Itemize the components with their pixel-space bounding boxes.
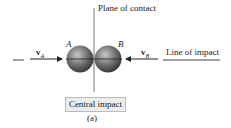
label-a: A xyxy=(66,40,72,49)
caption-box: Central impact xyxy=(65,97,126,112)
figure-label: (a) xyxy=(87,114,97,123)
velocity-a-label: vA xyxy=(36,48,44,59)
line-of-impact-label: Line of impact xyxy=(166,48,219,57)
label-b: B xyxy=(118,40,124,49)
velocity-b-label: vB xyxy=(141,48,149,59)
plane-of-contact-label: Plane of contact xyxy=(98,4,156,13)
